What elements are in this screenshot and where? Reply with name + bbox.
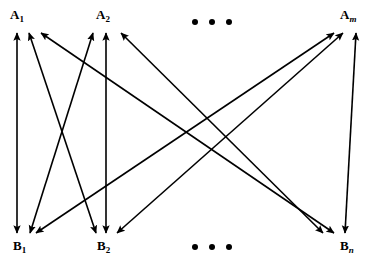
- ellipsis-dot: [192, 244, 198, 250]
- ellipsis-dot: [226, 19, 232, 25]
- node-label-b2: B2: [97, 239, 110, 252]
- node-subscript-b2: 2: [106, 245, 111, 255]
- ellipsis-dot: [192, 19, 198, 25]
- node-label-b1: B1: [13, 239, 26, 252]
- bottom-ellipsis: [192, 244, 232, 250]
- node-base-am: A: [340, 7, 349, 22]
- node-base-a2: A: [96, 7, 105, 22]
- ellipsis-dot: [209, 19, 215, 25]
- node-label-a2: A2: [96, 8, 110, 21]
- node-label-a1: A1: [10, 8, 24, 21]
- node-label-bn: Bn: [340, 239, 354, 252]
- graph-edge-am-bn: [345, 33, 356, 233]
- node-subscript-bn: n: [349, 245, 354, 255]
- graph-edges-svg: [0, 0, 371, 266]
- node-base-a1: A: [10, 7, 19, 22]
- node-base-bn: B: [340, 238, 349, 253]
- ellipsis-dot: [226, 244, 232, 250]
- node-subscript-a2: 2: [105, 14, 110, 24]
- node-base-b2: B: [97, 238, 106, 253]
- ellipsis-dot: [209, 244, 215, 250]
- node-subscript-am: m: [349, 14, 356, 24]
- bipartite-graph-diagram: A1 A2 Am B1 B2 Bn: [0, 0, 371, 266]
- node-label-am: Am: [340, 8, 356, 21]
- node-subscript-b1: 1: [22, 245, 27, 255]
- edge-group: [17, 33, 356, 233]
- node-base-b1: B: [13, 238, 22, 253]
- top-ellipsis: [192, 19, 232, 25]
- node-subscript-a1: 1: [19, 14, 24, 24]
